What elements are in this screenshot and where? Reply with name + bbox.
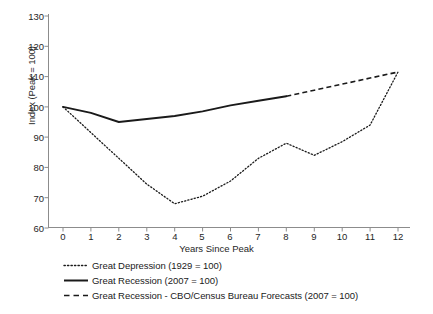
y-axis-ticks xyxy=(45,16,49,228)
legend-item-label: Great Depression (1929 = 100) xyxy=(92,260,222,271)
series-line-great-recession xyxy=(63,96,286,122)
legend-item-label: Great Recession (2007 = 100) xyxy=(92,275,218,286)
series-line-forecast xyxy=(286,72,398,96)
chart-legend: Great Depression (1929 = 100) Great Rece… xyxy=(63,258,423,303)
legend-item: Great Depression (1929 = 100) xyxy=(63,258,423,273)
chart-figure: Index (Peak = 100) 130 120 110 100 90 80… xyxy=(0,0,433,314)
plot-area xyxy=(0,0,433,250)
legend-item: Great Recession - CBO/Census Bureau Fore… xyxy=(63,288,423,303)
legend-item-label: Great Recession - CBO/Census Bureau Fore… xyxy=(92,290,358,301)
x-axis-ticks xyxy=(63,228,398,232)
dotted-line-key-icon xyxy=(63,260,89,271)
legend-item: Great Recession (2007 = 100) xyxy=(63,273,423,288)
solid-line-key-icon xyxy=(63,275,89,286)
dashed-line-key-icon xyxy=(63,290,89,301)
series-line-great-depression xyxy=(63,72,398,204)
